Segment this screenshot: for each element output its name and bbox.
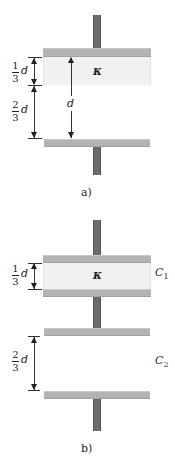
dim-var-upper-a: d xyxy=(21,64,28,77)
fraction-one-third-b: 1 3 xyxy=(12,264,19,287)
fraction-two-thirds-b: 2 3 xyxy=(12,350,19,373)
bottom-lead-b xyxy=(93,399,101,431)
top-lead-a xyxy=(93,15,101,49)
arrow-down-icon xyxy=(31,384,37,390)
dim-tick xyxy=(28,138,42,139)
caption-b: b) xyxy=(81,442,92,455)
kappa-label-a: κ xyxy=(93,64,102,78)
arrow-up-icon xyxy=(68,57,74,63)
middle-plate-lower-b xyxy=(44,328,150,336)
middle-plate-upper-b xyxy=(43,289,151,297)
connecting-wire-b xyxy=(93,297,101,329)
dim-total-label-a: d xyxy=(67,96,74,111)
top-lead-b xyxy=(93,220,101,256)
fraction-two-thirds-a: 2 3 xyxy=(12,100,19,123)
dim-tick xyxy=(28,390,40,391)
dim-line-lower-a xyxy=(34,86,35,138)
arrow-up-icon xyxy=(31,86,37,92)
capacitor-c2-label: C2 xyxy=(155,354,169,369)
arrow-down-icon xyxy=(31,283,37,289)
caption-a: a) xyxy=(81,186,92,199)
dim-var-upper-b: d xyxy=(21,267,28,280)
bottom-plate-a xyxy=(44,139,150,147)
dim-tick xyxy=(28,289,42,290)
arrow-up-icon xyxy=(31,58,37,64)
top-plate-a xyxy=(43,48,151,57)
dim-var-lower-a: d xyxy=(21,103,28,116)
kappa-label-b: κ xyxy=(93,268,102,282)
fraction-one-third-a: 1 3 xyxy=(12,61,19,84)
arrow-down-icon xyxy=(68,132,74,138)
arrow-down-icon xyxy=(31,132,37,138)
arrow-down-icon xyxy=(31,79,37,85)
bottom-plate-b xyxy=(44,391,150,399)
bottom-lead-a xyxy=(93,147,101,175)
dim-var-lower-b: d xyxy=(21,353,28,366)
top-plate-b xyxy=(43,255,151,263)
dim-line-lower-b xyxy=(34,337,35,390)
capacitor-c1-label: C1 xyxy=(155,266,169,281)
arrow-up-icon xyxy=(31,337,37,343)
arrow-up-icon xyxy=(31,263,37,269)
